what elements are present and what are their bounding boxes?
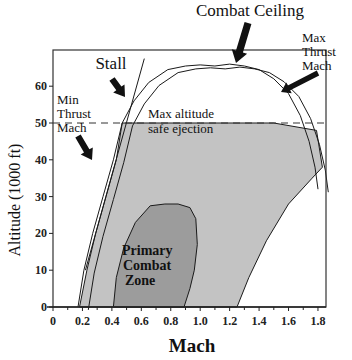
x-tick-label: 0.2 [75,314,90,328]
y-tick-label: 10 [35,263,47,277]
flight-envelope-chart: 00.20.40.60.81.01.21.41.61.8 01020304050… [0,0,352,360]
min-thrust-arrow-icon [75,134,93,160]
max-thrust-line-3: Mach [302,58,332,73]
x-tick-label: 1.0 [193,314,208,328]
max-thrust-line-1: Max [302,30,326,45]
y-axis-ticks: 0102030405060 [35,79,53,314]
x-tick-label: 0.8 [163,314,178,328]
zone-line-2: Combat [123,258,172,273]
min-thrust-line-1: Min [57,92,79,107]
x-tick-label: 0 [50,314,56,328]
max-thrust-line-2: Thrust [302,44,336,59]
zone-line-3: Zone [125,273,155,288]
y-tick-label: 20 [35,226,47,240]
zone-line-1: Primary [122,243,173,258]
annotation-max-thrust-mach: Max Thrust Mach [302,30,336,73]
annotation-combat-ceiling: Combat Ceiling [196,1,305,20]
x-tick-label: 0.4 [104,314,119,328]
min-thrust-line-3: Mach [57,120,87,135]
y-tick-label: 50 [35,116,47,130]
x-tick-label: 1.6 [281,314,296,328]
min-thrust-line-2: Thrust [57,106,91,121]
x-axis-ticks: 00.20.40.60.81.01.21.41.61.8 [47,307,326,328]
combat-ceiling-arrow-icon [232,22,252,63]
safe-ejection-line-1: Max altitude [148,106,214,121]
y-tick-label: 60 [35,79,47,93]
max-thrust-arrow-icon [281,71,319,94]
x-tick-label: 1.8 [310,314,325,328]
x-axis-title: Mach [169,335,216,356]
annotation-safe-ejection: Max altitude safe ejection [148,106,214,136]
y-tick-label: 30 [35,190,47,204]
y-tick-label: 0 [41,300,47,314]
y-tick-label: 40 [35,153,47,167]
x-tick-label: 1.4 [252,314,267,328]
x-tick-label: 1.2 [222,314,237,328]
y-axis-title: Altitude (1000 ft) [6,144,24,257]
annotation-stall: Stall [95,54,126,73]
annotation-min-thrust-mach: Min Thrust Mach [57,92,91,135]
stall-arrow-icon [109,77,125,97]
x-tick-label: 0.6 [134,314,149,328]
safe-ejection-line-2: safe ejection [148,121,214,136]
